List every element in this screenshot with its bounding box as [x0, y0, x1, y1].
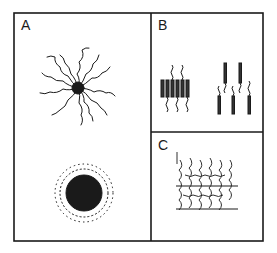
- panel-c-lamellar-layer: [176, 152, 238, 210]
- panel-borders: [14, 13, 263, 241]
- panel-b-label: B: [158, 18, 167, 32]
- panel-a-star-micelle: [40, 48, 115, 125]
- panel-c-label: C: [158, 138, 168, 152]
- figure-canvas: [0, 0, 277, 253]
- panel-a-collapsed-micelle: [55, 164, 113, 222]
- panel-a-label: A: [21, 18, 30, 32]
- panel-b-bilayer-right: [218, 63, 251, 114]
- panel-b-bilayer-left: [161, 65, 189, 112]
